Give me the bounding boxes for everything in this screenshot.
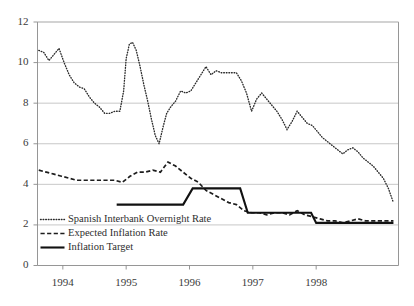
legend-label-dashed: Expected Inflation Rate: [68, 227, 168, 238]
gridlines: [38, 22, 399, 225]
chart-legend: Spanish Interbank Overnight RateExpected…: [41, 213, 212, 252]
y-tick-label-10: 10: [18, 55, 30, 67]
y-tick-label-2: 2: [23, 217, 29, 229]
y-tick-label-8: 8: [23, 96, 29, 108]
line-chart: 024681012 19941995199619971998 Spanish I…: [0, 0, 414, 306]
legend-label-dotted: Spanish Interbank Overnight Rate: [68, 213, 212, 224]
series-line-spanish-interbank-overnight-rate: [39, 42, 394, 202]
y-tick-label-6: 6: [23, 136, 29, 148]
x-tick-label-1995: 1995: [115, 276, 138, 288]
y-tick-label-12: 12: [18, 15, 29, 27]
x-tick-label-1997: 1997: [242, 276, 265, 288]
x-axis-tick-labels: 19941995199619971998: [52, 276, 328, 288]
x-tick-label-1998: 1998: [305, 276, 328, 288]
y-tick-label-0: 0: [23, 258, 29, 270]
data-series-group: [39, 42, 394, 223]
x-tick-label-1996: 1996: [179, 276, 202, 288]
legend-label-solid: Inflation Target: [68, 241, 133, 252]
chart-container: 024681012 19941995199619971998 Spanish I…: [0, 0, 414, 306]
y-tick-label-4: 4: [23, 177, 29, 189]
y-axis-tick-labels: 024681012: [18, 15, 30, 271]
x-tick-label-1994: 1994: [52, 276, 75, 288]
